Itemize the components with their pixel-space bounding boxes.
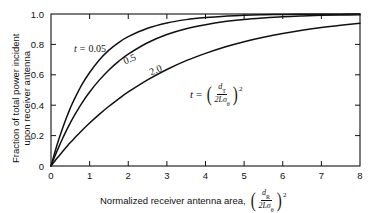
- curve-label-1-value: 0.05: [88, 44, 106, 54]
- xlabel-denominator-sub: θ: [271, 207, 274, 213]
- y-tick-label-4: 0.8: [31, 39, 44, 50]
- x-tick-label-7: 7: [319, 170, 324, 181]
- annotation-lhs: t: [190, 89, 193, 100]
- xlabel-close-paren: ): [277, 192, 282, 209]
- x-tick-label-0: 0: [48, 170, 53, 181]
- curve-label-1: t = 0.05: [74, 44, 106, 54]
- y-tick-label-0: 0: [39, 161, 44, 172]
- annotation-numerator: dT: [217, 82, 228, 95]
- x-axis-tick-labels: 012345678: [48, 170, 362, 181]
- curve-label-1-eq: =: [80, 44, 86, 54]
- x-tick-label-4: 4: [203, 170, 208, 181]
- annotation-exponent: 2: [239, 86, 243, 93]
- xlabel-denominator: 2Lσθ: [257, 201, 275, 213]
- xlabel-exponent: 2: [283, 192, 287, 199]
- x-axis-title-text: Normalized receiver antenna area,: [100, 196, 246, 206]
- xlabel-numerator: dR: [261, 188, 272, 201]
- x-tick-label-8: 8: [357, 170, 362, 181]
- x-tick-label-1: 1: [87, 170, 92, 181]
- y-axis-title-line-2: upon receiver antenna: [21, 34, 32, 163]
- x-axis-title: Normalized receiver antenna area, ( dR 2…: [100, 188, 286, 213]
- chart-figure: 012345678 00.20.40.60.81.0 Fraction of t…: [0, 0, 381, 213]
- x-tick-label-6: 6: [280, 170, 285, 181]
- x-tick-label-5: 5: [241, 170, 246, 181]
- curve-label-1-var: t: [74, 44, 77, 54]
- y-tick-label-5: 1.0: [31, 9, 44, 20]
- annotation-numerator-sub: T: [222, 88, 226, 94]
- xlabel-denominator-main: 2Lσ: [258, 201, 270, 210]
- y-tick-label-1: 0.2: [31, 130, 44, 141]
- plot-annotation-equation: t = ( dT 2Lσθ ) 2: [190, 82, 242, 107]
- annotation-equals: =: [196, 89, 202, 100]
- y-tick-label-2: 0.4: [31, 100, 44, 111]
- x-tick-label-3: 3: [164, 170, 169, 181]
- y-axis-tick-labels: 00.20.40.60.81.0: [31, 9, 44, 172]
- xlabel-open-paren: (: [251, 192, 256, 209]
- annotation-open-paren: (: [207, 86, 212, 103]
- y-axis-title: Fraction of total power incident upon re…: [10, 34, 32, 163]
- x-tick-label-2: 2: [126, 170, 131, 181]
- y-tick-label-3: 0.6: [31, 69, 44, 80]
- annotation-denominator: 2Lσθ: [213, 95, 231, 107]
- annotation-denominator-main: 2Lσ: [214, 95, 226, 104]
- xlabel-numerator-sub: R: [266, 194, 270, 200]
- annotation-fraction: dT 2Lσθ: [213, 82, 231, 107]
- y-axis-title-line-1: Fraction of total power incident: [10, 34, 21, 163]
- annotation-close-paren: ): [233, 86, 238, 103]
- xlabel-fraction: dR 2Lσθ: [257, 188, 275, 213]
- annotation-denominator-sub: θ: [227, 101, 230, 107]
